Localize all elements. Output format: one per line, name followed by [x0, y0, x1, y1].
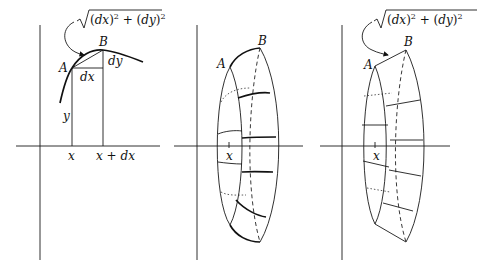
- band-line-1: [386, 100, 420, 106]
- back-line-4: [367, 188, 390, 192]
- right-rim: [260, 48, 279, 242]
- formula-text: (dx)2 + (dy)2: [90, 12, 166, 27]
- figure-canvas: A B dy dx y x x + dx (dx)2 + (dy)2: [0, 0, 480, 273]
- band-line-3: [389, 170, 421, 176]
- profile-curve-bottom: [230, 225, 260, 242]
- label-x: x: [68, 149, 75, 163]
- curved-arrow-icon: [65, 22, 84, 55]
- label-b: B: [257, 34, 267, 48]
- sqrt-formula: (dx)2 + (dy)2: [374, 10, 477, 28]
- label-x: x: [226, 149, 233, 163]
- profile-curve-top: [230, 48, 260, 67]
- panel-arc-element: A B dy dx y x x + dx (dx)2 + (dy)2: [16, 10, 166, 260]
- panel-frustum-band: x A B (dx)2 + (dy)2: [320, 10, 477, 260]
- band-line-1: [238, 93, 270, 98]
- left-rim-front: [375, 66, 386, 224]
- left-rim-back: [364, 66, 375, 224]
- label-dx: dx: [80, 70, 95, 84]
- label-b: B: [98, 35, 108, 49]
- label-b: B: [403, 35, 413, 49]
- label-a: A: [216, 57, 226, 71]
- sqrt-formula: (dx)2 + (dy)2: [77, 10, 166, 28]
- band-line-2: [242, 137, 276, 138]
- back-line-2: [218, 131, 242, 134]
- label-a: A: [58, 61, 68, 75]
- label-x-plus-dx: x + dx: [96, 149, 135, 163]
- chord-top: [375, 50, 406, 66]
- band-line-4: [236, 200, 266, 217]
- label-dy: dy: [108, 54, 123, 68]
- panel-curved-band: x A B: [174, 25, 303, 260]
- formula-text: (dx)2 + (dy)2: [387, 12, 463, 27]
- chord-bottom: [375, 224, 406, 242]
- curved-arrow-icon: [362, 22, 388, 55]
- back-arc-4: [221, 192, 246, 195]
- back-line-1: [364, 93, 392, 96]
- label-y: y: [62, 109, 70, 123]
- label-x: x: [373, 149, 380, 163]
- label-a: A: [363, 58, 373, 72]
